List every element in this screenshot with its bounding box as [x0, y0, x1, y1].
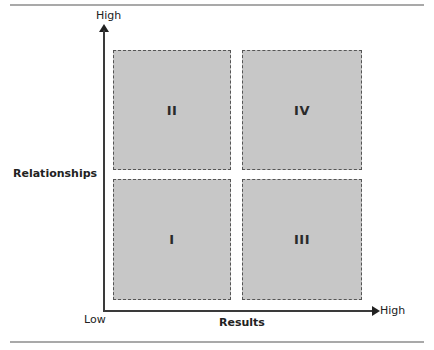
quadrant-ii: II — [113, 50, 231, 170]
quadrant-i: I — [113, 179, 231, 300]
quadrant-i-label: I — [169, 232, 174, 247]
top-divider-rule — [10, 4, 424, 6]
y-axis-high-label: High — [96, 9, 121, 22]
y-axis-label: Relationships — [13, 167, 97, 180]
quadrant-iii-label: III — [294, 232, 310, 247]
quadrant-iv-label: IV — [294, 103, 310, 118]
y-axis-line — [103, 30, 105, 311]
bottom-divider-rule — [10, 341, 424, 343]
quadrant-iii: III — [242, 179, 362, 300]
x-axis-high-label: High — [380, 304, 405, 317]
quadrant-ii-label: II — [167, 103, 178, 118]
quadrant-iv: IV — [242, 50, 362, 170]
x-axis-label: Results — [219, 316, 265, 329]
x-axis-low-label: Low — [84, 313, 106, 326]
x-axis-line — [103, 310, 373, 312]
x-axis-arrow-icon — [372, 306, 380, 316]
